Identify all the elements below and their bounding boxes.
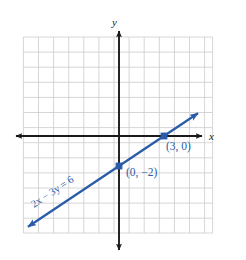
point-label-x-intercept: (3, 0) <box>166 140 191 153</box>
marker-x-intercept <box>161 133 168 140</box>
x-axis-label: x <box>208 130 214 142</box>
graph-canvas: x y (3, 0) (0, −2) 2x − 3y = 6 <box>0 0 246 260</box>
point-label-y-intercept: (0, −2) <box>126 166 158 179</box>
marker-y-intercept <box>116 163 123 170</box>
coordinate-graph-figure: . . . . . . <box>0 0 246 260</box>
grid-lines <box>23 37 212 233</box>
y-axis-label: y <box>111 16 117 28</box>
